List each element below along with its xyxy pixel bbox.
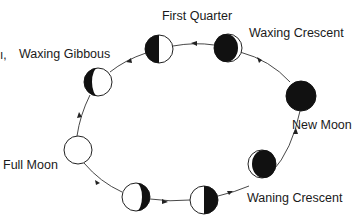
label-waxing-gibbous: Waxing Gibbous bbox=[19, 48, 110, 61]
arrow-icon bbox=[162, 199, 168, 204]
arrow-icon bbox=[126, 58, 132, 63]
new-moon-icon bbox=[286, 81, 316, 111]
waxing-gibbous-icon bbox=[84, 68, 112, 96]
direction-arrows bbox=[77, 41, 298, 204]
waning-gibbous-icon bbox=[122, 183, 150, 211]
moon-phase-diagram: ı, First Quarter Waxing Crescent Waxing … bbox=[0, 0, 356, 216]
waxing-crescent-icon bbox=[214, 34, 242, 62]
last-quarter-icon bbox=[190, 186, 218, 214]
label-waning-crescent: Waning Crescent bbox=[247, 192, 342, 205]
arrow-icon bbox=[257, 57, 262, 63]
partial-edge-text: ı, bbox=[0, 49, 7, 61]
arrow-icon bbox=[77, 112, 82, 118]
label-full-moon: Full Moon bbox=[3, 159, 58, 172]
label-first-quarter: First Quarter bbox=[162, 10, 232, 23]
full-moon-icon bbox=[64, 136, 92, 164]
label-new-moon: New Moon bbox=[292, 119, 352, 132]
arrow-icon bbox=[95, 180, 100, 185]
label-waxing-crescent: Waxing Crescent bbox=[249, 27, 344, 40]
first-quarter-icon bbox=[145, 35, 173, 63]
waning-crescent-icon bbox=[248, 150, 276, 178]
